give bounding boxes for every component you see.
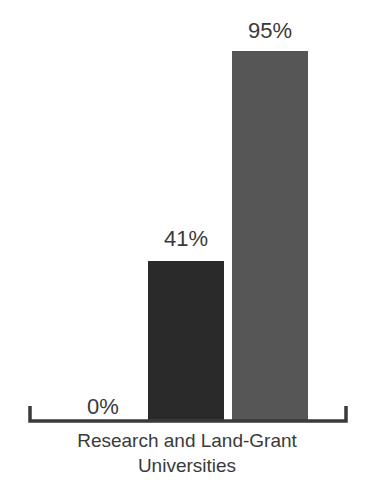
plot-area: 95% 41% 0% [0,0,374,492]
category-caption: Research and Land-Grant Universities [0,428,374,478]
bar-chart: 95% 41% 0% Research and Land-Grant Unive… [0,0,374,492]
caption-line-2: Universities [0,453,374,478]
caption-line-1: Research and Land-Grant [0,428,374,453]
axis-bracket [0,0,374,492]
